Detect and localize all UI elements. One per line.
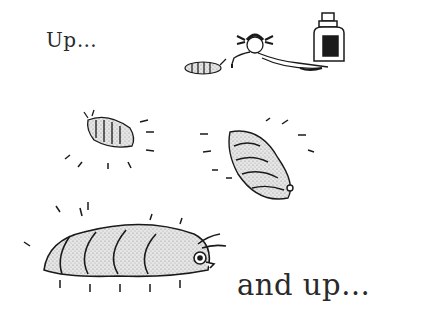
giant-bug-icon xyxy=(24,202,226,292)
small-bug-icon xyxy=(185,59,226,74)
illustration-canvas xyxy=(0,0,424,329)
medium-bug-icon xyxy=(65,110,154,169)
potion-bottle-icon xyxy=(314,13,344,61)
larger-bug-icon xyxy=(200,118,314,199)
